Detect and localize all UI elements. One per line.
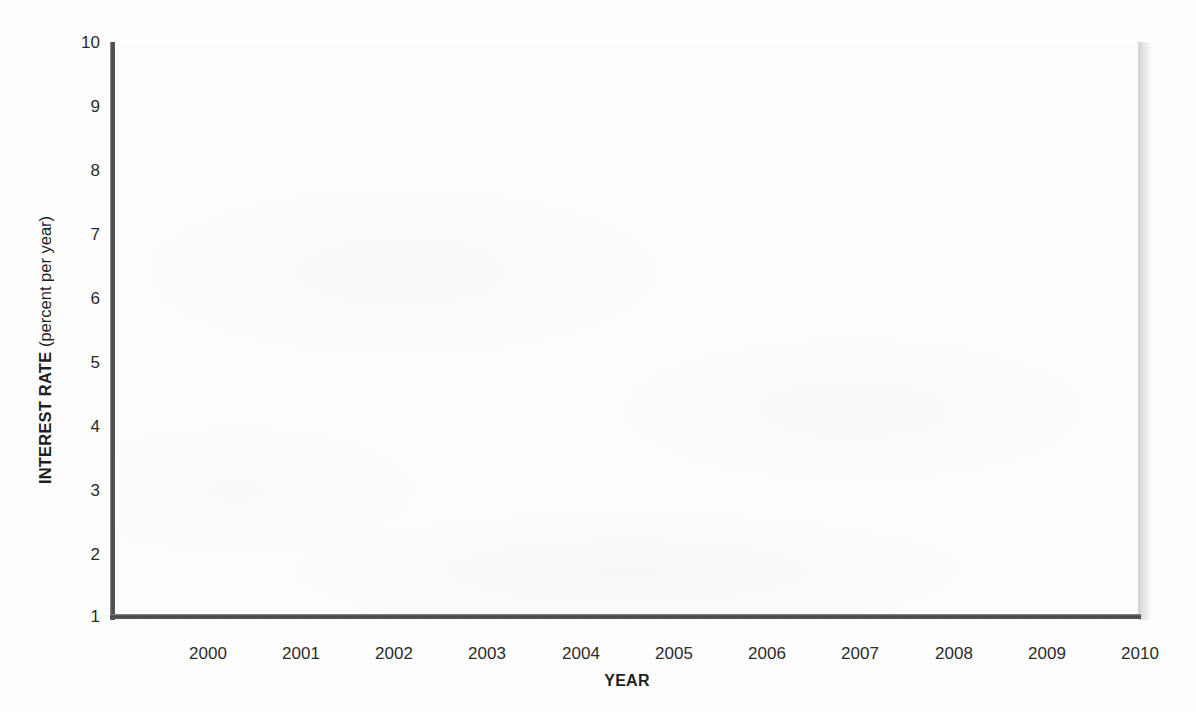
plot-area-edge-shadow (1138, 42, 1152, 620)
x-axis-title: YEAR (114, 672, 1140, 690)
x-axis-line (110, 614, 1141, 619)
y-axis-tick-label: 10 (40, 34, 100, 51)
plot-area (114, 42, 1140, 617)
x-axis-tick-label: 2004 (536, 645, 626, 662)
x-axis-tick-label: 2009 (1002, 645, 1092, 662)
y-axis-title-emphasis: INTEREST RATE (36, 352, 54, 484)
x-axis-tick-label: 2001 (256, 645, 346, 662)
x-axis-tick-label: 2005 (629, 645, 719, 662)
y-axis-title-detail: (percent per year) (36, 216, 54, 352)
y-axis-tick-label: 1 (40, 608, 100, 625)
x-axis-tick-label: 2003 (442, 645, 532, 662)
y-axis-line (110, 42, 115, 620)
x-axis-tick-label: 2008 (909, 645, 999, 662)
x-axis-tick-label: 2007 (815, 645, 905, 662)
y-axis-title: INTEREST RATE (percent per year) (36, 120, 55, 580)
x-axis-tick-label: 2006 (722, 645, 812, 662)
chart-figure: 10 9 8 7 6 5 4 3 2 1 2000 2001 2002 2003… (0, 0, 1196, 712)
x-axis-tick-label: 2002 (349, 645, 439, 662)
x-axis-tick-label: 2010 (1095, 645, 1185, 662)
y-axis-tick-label: 9 (40, 98, 100, 115)
x-axis-tick-label: 2000 (163, 645, 253, 662)
